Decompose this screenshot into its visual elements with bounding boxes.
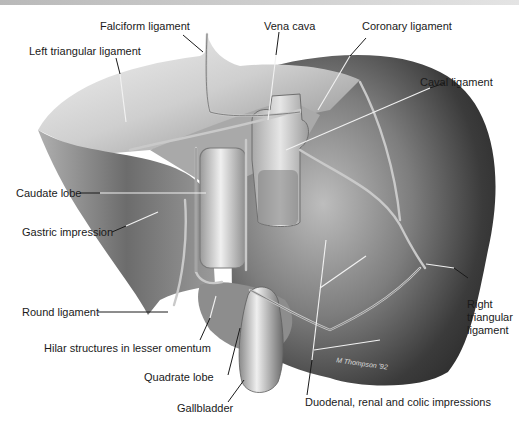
caudate-lobe (200, 148, 246, 268)
label-quadrate-lobe: Quadrate lobe (144, 371, 214, 384)
label-coronary-ligament: Coronary ligament (362, 20, 452, 33)
label-falciform-ligament: Falciform ligament (100, 20, 190, 33)
label-caval-ligament: Caval ligament (420, 76, 493, 89)
label-gallbladder: Gallbladder (177, 402, 233, 415)
label-vena-cava: Vena cava (264, 20, 315, 33)
label-duodenal-renal-colic: Duodenal, renal and colic impressions (305, 396, 491, 409)
label-caudate-lobe: Caudate lobe (16, 187, 81, 200)
label-left-triangular-ligament: Left triangular ligament (29, 45, 141, 58)
label-round-ligament: Round ligament (22, 306, 99, 319)
label-hilar-structures: Hilar structures in lesser omentum (44, 342, 211, 355)
label-gastric-impression: Gastric impression (22, 226, 113, 239)
liver-illustration (0, 0, 519, 424)
label-right-triangular-ligament: Right triangular ligament (467, 298, 519, 337)
